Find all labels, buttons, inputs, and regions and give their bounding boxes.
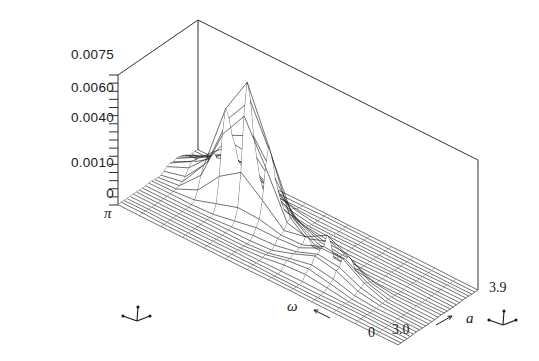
x-axis-end-label: 0 — [368, 325, 375, 341]
z-axis-label: a — [466, 310, 474, 327]
ytick-label-0: 0.0075 — [22, 47, 114, 62]
x-axis-label: ω — [287, 298, 298, 315]
triad-arm-cap — [121, 314, 124, 317]
surface-mesh — [118, 82, 478, 345]
triad-arm — [503, 320, 516, 325]
ytick-label-4: 0 — [22, 186, 114, 201]
triad-arm — [123, 316, 137, 321]
triad-arm-cap — [514, 318, 517, 321]
omega-direction-arrow — [314, 310, 330, 318]
triad-arm — [137, 316, 150, 321]
ytick-label-3: 0.0010 — [22, 155, 114, 170]
figure-page: 0.0075 0.0060 0.0040 0.0010 0 π ω 0 3.0 … — [0, 0, 539, 361]
triad-arm — [489, 320, 503, 325]
axis-triad-icon-right — [487, 309, 517, 325]
triad-arm — [137, 307, 138, 321]
triad-arm — [503, 311, 504, 325]
box-top-right-edge — [198, 20, 478, 160]
mesh-seg-w-12-4 — [226, 82, 248, 108]
ytick-label-1: 0.0060 — [22, 80, 114, 95]
z-axis-end-label: 3.9 — [489, 280, 507, 296]
z-axis-start-label: 3.0 — [392, 322, 410, 338]
ytick-label-2: 0.0040 — [22, 110, 114, 125]
triad-arm-cap — [148, 314, 151, 317]
x-axis-start-label: π — [104, 205, 112, 222]
box-top-left-edge — [118, 20, 198, 75]
triad-arm-cap — [487, 318, 490, 321]
triad-arm-cap — [136, 305, 139, 308]
axis-triad-icon-left — [121, 305, 151, 321]
triad-arm-cap — [502, 309, 505, 312]
a-direction-arrow — [436, 316, 452, 325]
